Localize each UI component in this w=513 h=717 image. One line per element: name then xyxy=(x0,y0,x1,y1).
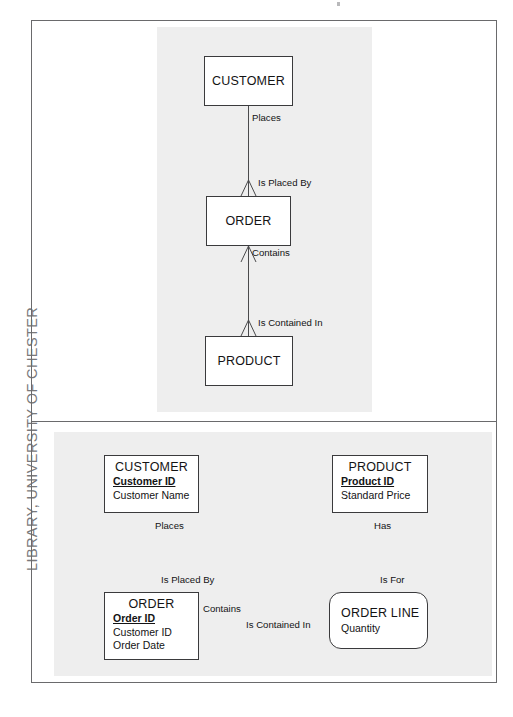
attribute-primary-key: Product ID xyxy=(333,475,427,488)
attribute: Quantity xyxy=(330,622,427,635)
page-canvas: LIBRARY, UNIVERSITY OF CHESTER xyxy=(0,0,513,717)
entity-product-bottom[interactable]: PRODUCT Product ID Standard Price xyxy=(332,455,428,513)
attribute: Order Date xyxy=(105,639,198,652)
entity-order-bottom[interactable]: ORDER Order ID Customer ID Order Date xyxy=(104,592,199,660)
entity-title: CUSTOMER xyxy=(212,74,285,88)
attribute: Standard Price xyxy=(333,489,427,502)
rel-label-is-placed-by-bottom: Is Placed By xyxy=(161,575,214,585)
entity-title: PRODUCT xyxy=(333,460,427,474)
scan-artifact-speck xyxy=(337,2,340,6)
entity-order-line[interactable]: ORDER LINE Quantity xyxy=(329,592,428,649)
entity-title: ORDER xyxy=(105,597,198,611)
attribute-primary-key: Customer ID xyxy=(105,475,198,488)
rel-label-contains-bottom: Contains xyxy=(203,604,241,614)
entity-title: ORDER LINE xyxy=(330,606,427,620)
rel-label-contains-top: Contains xyxy=(252,248,290,258)
rel-label-is-for-bottom: Is For xyxy=(380,575,405,585)
entity-title: PRODUCT xyxy=(217,354,280,368)
rel-label-places-top: Places xyxy=(252,113,281,123)
rel-label-places-bottom: Places xyxy=(155,521,184,531)
rel-label-is-contained-in-bottom: Is Contained In xyxy=(246,620,311,630)
entity-title: ORDER xyxy=(225,214,271,228)
entity-product-top[interactable]: PRODUCT xyxy=(205,336,293,386)
rel-label-is-contained-in-top: Is Contained In xyxy=(258,318,323,328)
entity-order-top[interactable]: ORDER xyxy=(206,196,291,246)
rel-label-has-bottom: Has xyxy=(374,521,391,531)
entity-title: CUSTOMER xyxy=(105,460,198,474)
rel-label-is-placed-by-top: Is Placed By xyxy=(258,178,311,188)
entity-customer-bottom[interactable]: CUSTOMER Customer ID Customer Name xyxy=(104,455,199,513)
attribute: Customer ID xyxy=(105,626,198,639)
figure-divider xyxy=(31,421,497,422)
attribute: Customer Name xyxy=(105,489,198,502)
attribute-primary-key: Order ID xyxy=(105,612,198,625)
entity-customer-top[interactable]: CUSTOMER xyxy=(204,56,293,106)
